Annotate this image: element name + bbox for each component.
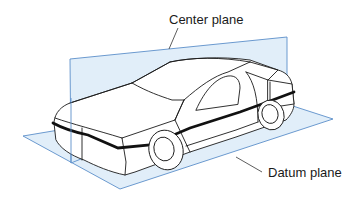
center-plane-label: Center plane [169,13,243,26]
datum-plane-label: Datum plane [268,166,342,179]
datum-plane-leader [236,157,262,172]
center-plane-leader [169,28,178,49]
